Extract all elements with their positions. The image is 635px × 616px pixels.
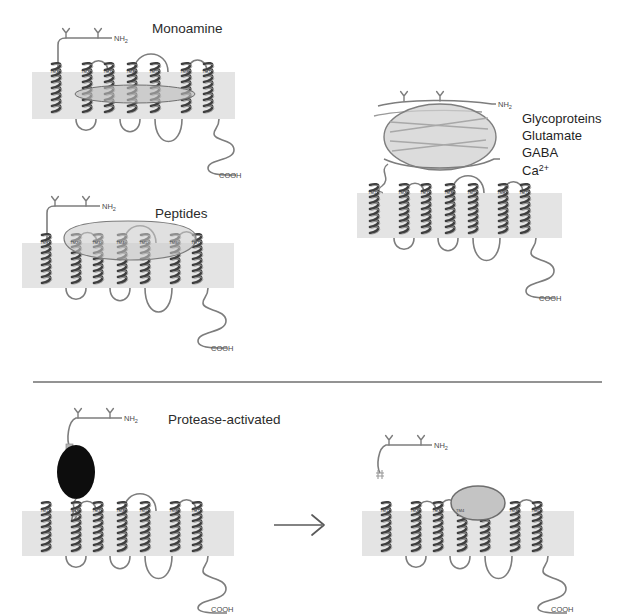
- glycan-icon: [95, 29, 102, 39]
- svg-text:TM4: TM4: [116, 240, 125, 245]
- domain-tm-linker: [379, 164, 388, 193]
- loop-icl1: [66, 288, 86, 299]
- ligand-label-glutamate: Glutamate: [522, 128, 582, 143]
- panel-protease-activated-before: Protease-activated NH2 COOH: [22, 409, 281, 615]
- svg-text:TM4: TM4: [456, 508, 465, 513]
- svg-text:TM7: TM7: [519, 190, 528, 195]
- svg-text:TM3: TM3: [92, 508, 101, 513]
- loop-icl2: [438, 238, 458, 251]
- loop-icl3: [145, 556, 172, 579]
- n-terminus-label: NH2: [102, 202, 116, 212]
- c-terminus-label: COOH: [539, 294, 562, 303]
- svg-text:TM5: TM5: [467, 190, 476, 195]
- loop-icl2: [450, 556, 470, 569]
- svg-text:TM3: TM3: [420, 190, 429, 195]
- panel-title-protease-activated: Protease-activated: [168, 412, 281, 427]
- glycan-icon: [75, 409, 82, 419]
- loop-icl1: [394, 238, 414, 249]
- loop-icl1: [406, 556, 426, 567]
- c-terminus-label: COOH: [211, 344, 234, 353]
- panel-glycoproteins: Glycoproteins Glutamate GABA Ca2+ NH2: [357, 92, 602, 304]
- n-terminal-domain-blob: [384, 104, 496, 170]
- loop-icl1: [66, 556, 86, 567]
- svg-text:TM6: TM6: [497, 190, 506, 195]
- panel-protease-activated-after: NH2 COOH TM1 TM2: [362, 436, 574, 615]
- cleaved-n-fragment: [378, 445, 432, 473]
- figure-canvas: Monoamine NH2 COOH: [0, 0, 635, 616]
- n-terminal-tail: [58, 38, 112, 72]
- loop-icl3: [155, 119, 182, 142]
- loop-icl3: [485, 556, 512, 579]
- gpcr-diagram: Monoamine NH2 COOH: [0, 0, 635, 616]
- svg-text:TM7: TM7: [202, 69, 211, 74]
- glycan-icon: [401, 92, 408, 102]
- svg-text:TM1: TM1: [40, 240, 49, 245]
- panel-title-peptides: Peptides: [155, 206, 208, 221]
- c-terminus-label: COOH: [211, 605, 234, 614]
- glycan-icon: [83, 197, 90, 207]
- svg-text:TM7: TM7: [191, 508, 200, 513]
- n-terminus-label: NH2: [498, 100, 512, 110]
- svg-text:TM5: TM5: [509, 508, 518, 513]
- glycan-icon: [52, 197, 59, 207]
- svg-text:TM2: TM2: [81, 69, 90, 74]
- svg-text:TM3: TM3: [103, 69, 112, 74]
- svg-text:TM1: TM1: [380, 508, 389, 513]
- glycan-icon: [418, 436, 425, 446]
- svg-text:TM4: TM4: [444, 190, 453, 195]
- svg-text:TM5: TM5: [149, 69, 158, 74]
- ligand-label-calcium: Ca2+: [522, 163, 549, 178]
- svg-text:TM1: TM1: [40, 508, 49, 513]
- panel-title-monoamine: Monoamine: [152, 21, 223, 36]
- svg-text:TM4: TM4: [126, 69, 135, 74]
- c-terminal-tail: [198, 288, 227, 348]
- n-terminus-label: NH2: [114, 34, 128, 44]
- glycan-icon: [437, 92, 444, 102]
- ligand-binding-pocket: [75, 85, 195, 103]
- svg-text:TM1: TM1: [368, 190, 377, 195]
- loop-icl1: [76, 119, 96, 130]
- prodomain-black-blob: [57, 445, 95, 499]
- svg-text:TM5: TM5: [139, 508, 148, 513]
- svg-text:TM3: TM3: [432, 508, 441, 513]
- svg-text:TM6: TM6: [169, 508, 178, 513]
- glycan-icon: [63, 29, 70, 39]
- svg-text:TM2: TM2: [70, 508, 79, 513]
- svg-text:TM6: TM6: [531, 508, 540, 513]
- loop-icl2: [110, 288, 130, 301]
- svg-text:TM4: TM4: [116, 508, 125, 513]
- svg-text:TM6: TM6: [180, 69, 189, 74]
- svg-text:TM1: TM1: [50, 69, 59, 74]
- c-terminal-tail: [208, 119, 236, 175]
- ligand-label-gaba: GABA: [522, 145, 558, 160]
- svg-text:TM7: TM7: [191, 240, 200, 245]
- svg-text:TM3: TM3: [92, 240, 101, 245]
- svg-text:TM2: TM2: [70, 240, 79, 245]
- loop-icl3: [145, 288, 172, 312]
- cleavage-arrow: [274, 515, 324, 535]
- c-terminal-tail: [526, 238, 555, 298]
- loop-icl3: [473, 238, 500, 261]
- glycan-icon: [386, 436, 393, 446]
- panel-monoamine: Monoamine NH2 COOH: [32, 21, 242, 180]
- panel-peptides: Peptides NH2 COOH: [22, 197, 234, 354]
- loop-icl2: [110, 556, 130, 569]
- n-terminus-label: NH2: [124, 414, 138, 424]
- svg-text:TM2: TM2: [398, 190, 407, 195]
- loop-icl2: [120, 119, 140, 132]
- svg-text:TM5: TM5: [139, 240, 148, 245]
- n-terminal-tail: [68, 418, 122, 448]
- c-terminus-label: COOH: [219, 171, 242, 180]
- n-terminus-label: NH2: [434, 441, 448, 451]
- tethered-ligand-blob: [451, 486, 505, 520]
- c-terminus-label: COOH: [551, 605, 574, 614]
- glycan-icon: [107, 409, 114, 419]
- svg-text:TM2: TM2: [410, 508, 419, 513]
- svg-text:TM6: TM6: [169, 240, 178, 245]
- ligand-label-glycoproteins: Glycoproteins: [522, 111, 602, 126]
